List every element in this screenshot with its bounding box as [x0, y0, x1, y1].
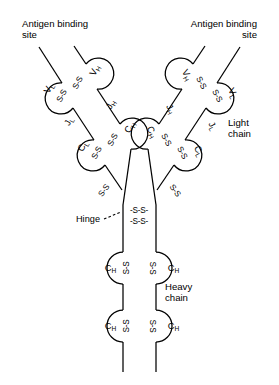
antibody-structure-svg: S-S S-S S-S S-S S-S S-S S-S S-S S-S S-S … — [0, 0, 279, 385]
antigen-binding-site-label-left-line2: site — [22, 29, 37, 40]
svg-text:JH: JH — [152, 83, 186, 132]
light-chain-label-line2: chain — [228, 128, 251, 139]
domain-label-right-vh: VH — [167, 47, 203, 100]
antigen-binding-site-label-right-line1: Antigen binding — [191, 18, 257, 29]
joining-label-left-jh: JH — [93, 83, 127, 132]
antigen-binding-site-label-right-line2: site — [242, 29, 257, 40]
antigen-binding-site-label-left-line1: Antigen binding — [22, 18, 88, 29]
ss-label-right-cl: S-S — [175, 145, 189, 161]
svg-text:VH: VH — [76, 47, 112, 100]
antibody-diagram: S-S S-S S-S S-S S-S S-S S-S S-S S-S S-S … — [0, 0, 279, 385]
joining-label-left-jl: JL — [52, 100, 85, 148]
domain-label-left-vh: VH — [76, 47, 112, 100]
ss-label-left-cl: S-S — [90, 144, 104, 160]
svg-text:JL: JL — [52, 100, 85, 148]
stem-left-heavy-chain — [107, 205, 123, 372]
svg-text:VH: VH — [167, 47, 203, 100]
light-chain-label-line1: Light — [228, 117, 249, 128]
heavy-chain-label-line1: Heavy — [165, 281, 192, 292]
ss-label-right-interchain: S-S — [168, 183, 183, 199]
svg-text:JH: JH — [93, 83, 127, 132]
hinge-leader-line — [104, 212, 121, 219]
ss-label-hinge-upper: -S-S- — [130, 206, 149, 215]
ss-label-left-interchain: S-S — [97, 182, 112, 198]
hinge-label: Hinge — [76, 214, 100, 224]
ss-label-hinge-lower: -S-S- — [130, 217, 149, 226]
ss-label-left-vl: S-S — [55, 87, 69, 103]
heavy-chain-label-line2: chain — [165, 292, 188, 303]
ss-label-right-vl: S-S — [210, 88, 224, 104]
joining-label-right-jh: JH — [152, 83, 186, 132]
left-light-chain-strand — [39, 47, 122, 190]
